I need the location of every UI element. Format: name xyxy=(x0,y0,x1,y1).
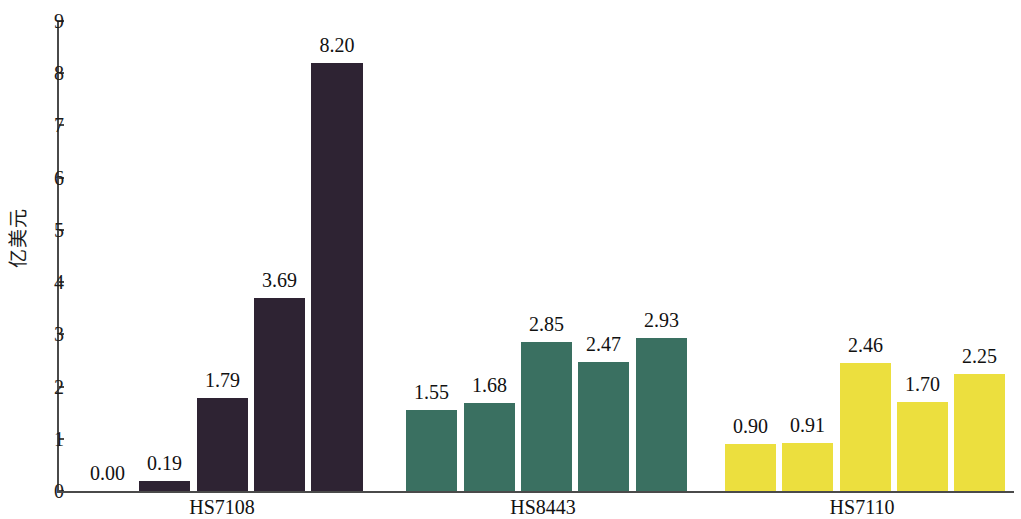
bar xyxy=(464,403,515,491)
x-axis-group-label: HS8443 xyxy=(483,496,603,519)
plot-area: 0.000.191.793.698.201.551.682.852.472.93… xyxy=(0,0,1021,519)
bar-value-label: 2.93 xyxy=(622,310,701,330)
bar-value-label: 2.46 xyxy=(826,335,905,355)
bar xyxy=(406,410,457,491)
bar-value-label: 2.47 xyxy=(564,334,643,354)
bar-chart: 亿美元 0123456789 0.000.191.793.698.201.551… xyxy=(0,0,1021,519)
bar xyxy=(254,298,305,491)
bar xyxy=(521,342,572,491)
bar xyxy=(954,374,1005,492)
x-axis-group-label: HS7110 xyxy=(802,496,922,519)
bar-value-label: 0.19 xyxy=(125,453,204,473)
bar xyxy=(197,398,248,491)
bar-value-label: 2.25 xyxy=(940,346,1019,366)
x-axis-group-label: HS7108 xyxy=(162,496,282,519)
bar xyxy=(725,444,776,491)
bar xyxy=(897,402,948,491)
bar xyxy=(311,63,363,491)
bar xyxy=(139,481,190,491)
bar xyxy=(782,443,833,491)
bar-value-label: 0.91 xyxy=(768,415,847,435)
bar xyxy=(636,338,687,491)
bar-value-label: 2.85 xyxy=(507,314,586,334)
bar-value-label: 1.79 xyxy=(183,370,262,390)
bar-value-label: 8.20 xyxy=(297,35,377,55)
bar-value-label: 1.68 xyxy=(450,375,529,395)
bar xyxy=(578,362,629,491)
bar-value-label: 3.69 xyxy=(240,270,319,290)
bar-value-label: 1.70 xyxy=(883,374,962,394)
